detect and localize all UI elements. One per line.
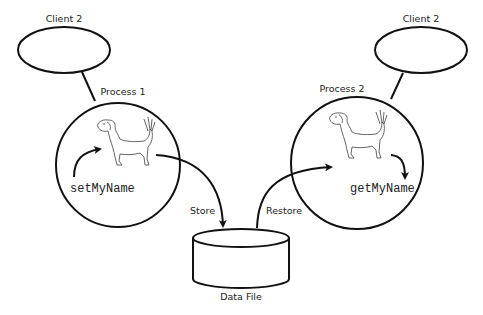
client-process-link-right bbox=[391, 73, 403, 99]
set-arrow bbox=[74, 149, 100, 177]
client-node-right bbox=[375, 27, 467, 73]
restore-arrow bbox=[257, 167, 331, 228]
dog-icon bbox=[330, 110, 387, 158]
method-label-get: getMyName bbox=[350, 182, 415, 196]
edge-label-restore: Restore bbox=[266, 205, 302, 216]
client-node-left bbox=[18, 27, 110, 73]
storage-label: Data File bbox=[220, 291, 262, 302]
diagram-canvas: Client 2 Client 2 Process 1 Process 2 se… bbox=[0, 0, 483, 315]
edge-label-store: Store bbox=[190, 205, 215, 216]
process-label-1: Process 1 bbox=[100, 86, 145, 97]
client-label-left: Client 2 bbox=[46, 13, 83, 24]
client-label-right: Client 2 bbox=[403, 13, 440, 24]
process-label-2: Process 2 bbox=[319, 83, 364, 94]
database-cylinder-icon bbox=[193, 229, 289, 288]
get-arrow bbox=[391, 155, 405, 178]
method-label-set: setMyName bbox=[70, 182, 135, 196]
client-process-link-left bbox=[82, 72, 95, 101]
dog-icon bbox=[98, 117, 155, 165]
